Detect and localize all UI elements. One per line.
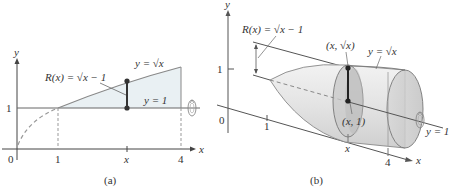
point-bottom-label: (x, 1) (342, 115, 366, 128)
y-axis-label-b: y (224, 0, 230, 10)
radius-label-b: R(x) = √x − 1 (241, 23, 303, 36)
tick-label-x: x (123, 153, 129, 165)
y-tick-label-1: 1 (6, 102, 12, 114)
x-axis-label-b: x (415, 154, 421, 166)
tick-label-4: 4 (178, 153, 184, 165)
line-label: y = 1 (143, 94, 167, 106)
y-axis-arrow-icon (15, 58, 20, 64)
radius-label: R(x) = √x − 1 (44, 71, 106, 84)
end-cap (387, 70, 423, 148)
y-axis-label: y (13, 46, 19, 58)
point-bottom (124, 105, 129, 110)
x-axis-arrow-icon-b (405, 157, 413, 162)
figure-a: y x 0 1 x 4 1 y = √x y = 1 R(x) = √x − 1… (2, 46, 204, 187)
caption-a: (a) (104, 174, 117, 187)
curve-label: y = √x (134, 57, 164, 69)
tick-label-1: 1 (55, 153, 61, 165)
origin-label-b: 0 (219, 114, 225, 126)
dimension-arrow-up-icon (254, 44, 258, 49)
tick-label-x-b: x (344, 142, 350, 154)
figure-b: y x 0 1 x 4 1 R(x) = √x − 1 (x, √x) y = … (217, 0, 449, 187)
x-axis-arrow-icon (190, 147, 196, 152)
tick-label-4-b: 4 (385, 156, 391, 168)
y-tick-label-1-b: 1 (217, 63, 223, 75)
tick-label-1-b: 1 (264, 120, 270, 132)
point-top-b (345, 65, 350, 70)
caption-b: (b) (310, 174, 323, 187)
point-top-label: (x, √x) (326, 39, 355, 52)
point-top (124, 78, 129, 83)
y-axis-arrow-icon-b (226, 10, 231, 16)
x-axis-label: x (198, 143, 204, 155)
dimension-arrow-down-icon (254, 69, 258, 74)
solid-of-revolution-figure: y x 0 1 x 4 1 y = √x y = 1 R(x) = √x − 1… (0, 0, 456, 192)
point-bottom-b (345, 98, 350, 103)
curve-dashed-part (18, 108, 58, 145)
lower-bound-line (253, 75, 270, 80)
top-point-leader (346, 52, 348, 66)
origin-label: 0 (8, 153, 14, 165)
line-label-b: y = 1 (425, 125, 449, 137)
curve-label-b: y = √x (367, 45, 397, 57)
